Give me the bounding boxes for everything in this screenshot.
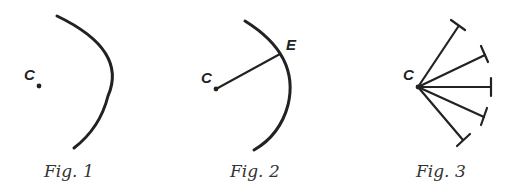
- diagram-canvas: C Fig. 1 C E Fig. 2 C Fig. 3: [0, 0, 511, 188]
- figure-3: C Fig. 3: [403, 20, 491, 181]
- fig3-caption: Fig. 3: [415, 161, 466, 181]
- fig3-ray-5: [418, 87, 463, 140]
- figure-1: C Fig. 1: [24, 16, 112, 181]
- fig2-radius-line: [216, 54, 280, 89]
- fig1-arc: [57, 16, 112, 148]
- fig2-caption: Fig. 2: [229, 161, 280, 181]
- fig3-ray-2-cap: [481, 46, 488, 62]
- fig1-caption: Fig. 1: [43, 161, 94, 181]
- figure-2: C E Fig. 2: [201, 21, 297, 181]
- fig3-center-label: C: [403, 66, 415, 83]
- fig3-ray-4: [418, 87, 484, 117]
- fig2-center-point: [214, 87, 219, 92]
- fig1-center-point: [37, 84, 42, 89]
- fig2-center-label: C: [201, 69, 213, 86]
- fig2-arc: [245, 21, 290, 150]
- fig3-center-point: [416, 85, 421, 90]
- fig3-rays: [418, 20, 491, 146]
- fig1-center-label: C: [24, 66, 36, 83]
- fig2-edge-label: E: [286, 36, 297, 53]
